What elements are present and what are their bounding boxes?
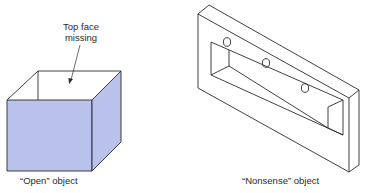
hole-icon [301, 84, 308, 93]
cube-front-face [7, 100, 92, 171]
inner-back-bottom [229, 66, 328, 128]
hole-icon [223, 38, 230, 47]
inner-depth-top-right [328, 100, 343, 107]
outer-top-edge [198, 5, 359, 98]
annotation-label: Top face missing [62, 21, 100, 43]
annotation-arrow [69, 45, 81, 84]
open-object-cube [7, 71, 121, 171]
outer-right-edge [349, 90, 359, 172]
nonsense-object [198, 5, 359, 172]
inner-opening [211, 42, 343, 135]
inner-depth-bottom-left [211, 66, 229, 75]
nonsense-object-caption: “Nonsense” object [242, 175, 319, 186]
annotation-line-2: missing [62, 32, 100, 43]
cube-right-face [92, 71, 121, 171]
inner-depth-bottom-right [328, 128, 343, 135]
figure-canvas [0, 0, 372, 193]
annotation-line-1: Top face [62, 21, 100, 32]
open-object-caption: “Open” object [20, 175, 78, 186]
